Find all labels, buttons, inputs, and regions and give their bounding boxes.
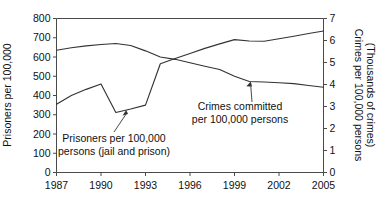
y2-axis-title-line2: (Thousands of crimes) bbox=[365, 43, 377, 147]
chart-container: 0100200300400500600700800 01234567 19871… bbox=[0, 0, 378, 206]
y-axis-title: Prisoners per 100,000 bbox=[1, 43, 13, 146]
x-tick-label: 1990 bbox=[89, 179, 113, 191]
y-tick-label: 200 bbox=[33, 128, 51, 140]
y-tick-label: 600 bbox=[33, 51, 51, 63]
y2-tick-label: 6 bbox=[330, 34, 336, 46]
y2-tick-label: 3 bbox=[330, 100, 336, 112]
y2-tick-label: 2 bbox=[330, 122, 336, 134]
y-axis-tick-labels: 0100200300400500600700800 bbox=[33, 12, 51, 178]
y-tick-label: 800 bbox=[33, 12, 51, 24]
y2-tick-label: 5 bbox=[330, 56, 336, 68]
x-tick-label: 2005 bbox=[312, 179, 336, 191]
prisoners-annotation-line2: persons (jail and prison) bbox=[58, 145, 170, 157]
x-tick-label: 1996 bbox=[178, 179, 202, 191]
y-tick-label: 0 bbox=[45, 166, 51, 178]
crimes-annotation-line1: Crimes committed bbox=[198, 100, 283, 112]
y2-tick-label: 7 bbox=[330, 12, 336, 24]
y-tick-label: 300 bbox=[33, 108, 51, 120]
y-tick-label: 400 bbox=[33, 89, 51, 101]
y-tick-label: 700 bbox=[33, 31, 51, 43]
line-chart: 0100200300400500600700800 01234567 19871… bbox=[0, 0, 378, 206]
x-tick-label: 1987 bbox=[45, 179, 69, 191]
y2-axis-title-line1: Crimes per 100,000 persons bbox=[353, 29, 365, 162]
prisoners-annotation-line1: Prisoners per 100,000 bbox=[62, 132, 165, 144]
x-tick-label: 1993 bbox=[134, 179, 158, 191]
y2-tick-label: 0 bbox=[330, 166, 336, 178]
y2-tick-label: 1 bbox=[330, 144, 336, 156]
y-tick-label: 100 bbox=[33, 147, 51, 159]
crimes-annotation-line2: per 100,000 persons bbox=[192, 113, 288, 125]
y-tick-label: 500 bbox=[33, 70, 51, 82]
y2-tick-label: 4 bbox=[330, 78, 336, 90]
x-tick-label: 2002 bbox=[267, 179, 291, 191]
x-tick-label: 1999 bbox=[223, 179, 247, 191]
